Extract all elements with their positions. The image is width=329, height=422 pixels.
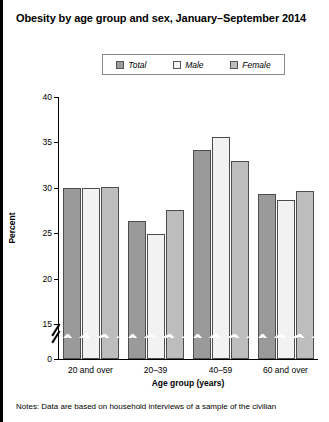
bar-female	[166, 210, 184, 359]
bar-female	[231, 161, 249, 359]
top-rule	[3, 2, 329, 4]
bar-group: 40–59	[188, 97, 253, 359]
bar-male	[147, 234, 165, 359]
x-tick-label: 20 and over	[58, 365, 123, 375]
legend-item-total: Total	[116, 60, 146, 70]
y-tick-label: 15	[43, 319, 52, 329]
bar-group: 60 and over	[253, 97, 318, 359]
y-tick-label: 25	[43, 228, 52, 238]
legend-item-male: Male	[173, 60, 203, 70]
legend-label-total: Total	[128, 60, 146, 70]
bar-male	[82, 188, 100, 359]
chart-figure: Obesity by age group and sex, January–Se…	[0, 0, 329, 422]
y-tick	[54, 359, 58, 360]
legend-item-female: Female	[230, 60, 270, 70]
bar-total	[63, 188, 81, 359]
bar-male	[277, 200, 295, 359]
y-tick-label: 0	[47, 354, 52, 364]
bar-group: 20 and over	[58, 97, 123, 359]
bar-male	[212, 137, 230, 359]
y-axis-title: Percent	[7, 212, 17, 243]
bar-total	[193, 150, 211, 359]
bar-total	[258, 194, 276, 359]
y-tick-label: 20	[43, 274, 52, 284]
legend-label-male: Male	[185, 60, 203, 70]
x-axis-line	[58, 359, 318, 360]
bar-female	[296, 191, 314, 359]
legend-swatch-female-icon	[230, 61, 238, 69]
bar-total	[128, 221, 146, 359]
bar-female	[101, 187, 119, 359]
y-tick-label: 30	[43, 183, 52, 193]
page-title: Obesity by age group and sex, January–Se…	[16, 12, 316, 25]
bar-group: 20–39	[123, 97, 188, 359]
legend-label-female: Female	[242, 60, 270, 70]
x-tick-label: 40–59	[188, 365, 253, 375]
chart-legend: Total Male Female	[102, 54, 285, 75]
x-axis-title: Age group (years)	[58, 378, 318, 388]
legend-swatch-male-icon	[173, 61, 181, 69]
x-tick-label: 60 and over	[253, 365, 318, 375]
figure-notes: Notes: Data are based on household inter…	[16, 401, 328, 412]
y-tick-label: 35	[43, 137, 52, 147]
y-tick-label: 40	[43, 92, 52, 102]
legend-swatch-total-icon	[116, 61, 124, 69]
x-tick-label: 20–39	[123, 365, 188, 375]
plot-area: Percent 0152025303540 20 and over20–3940…	[58, 97, 318, 359]
